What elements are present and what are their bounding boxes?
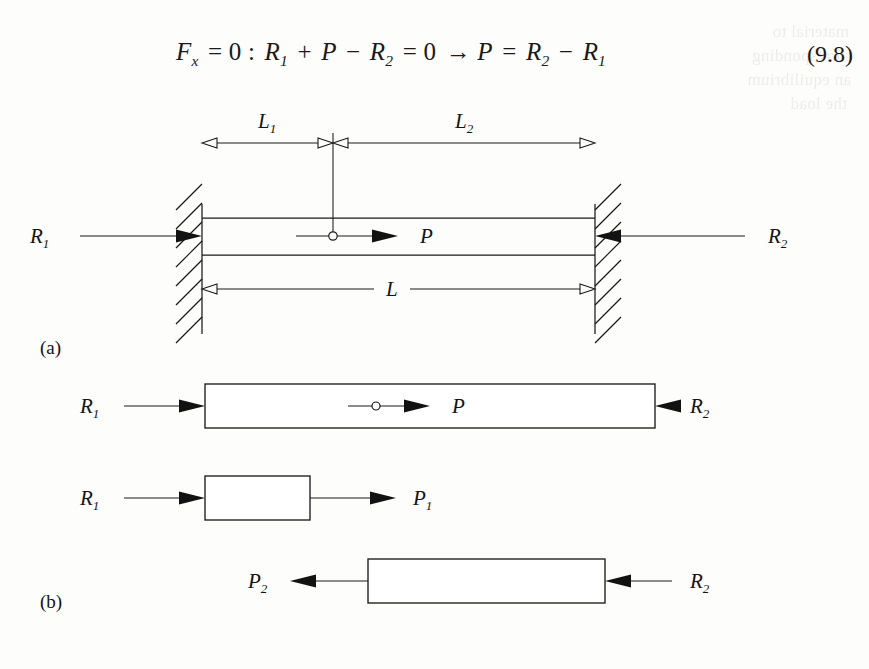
fbd-whole-bar-force-R2-right-arrowhead (655, 400, 681, 413)
equation-term-F: F (176, 38, 191, 65)
equation-term-R2-right: R (526, 38, 541, 65)
equation-plus: + (288, 38, 321, 65)
panel-b-caption: (b) (40, 591, 62, 613)
dimension-L1-label-subscript: 1 (270, 121, 277, 136)
fbd-whole-bar-force-R2-right-label-subscript: 2 (703, 406, 710, 421)
panel-a-reaction-R2-label: R2 (767, 224, 788, 251)
panel-a-load-label: P (419, 224, 433, 248)
panel-a-load-application-point (329, 232, 337, 240)
fbd-right-segment-outline (368, 559, 605, 603)
dimension-L1-arrowhead-right (318, 138, 333, 148)
equation-term-R1-right: R (583, 38, 598, 65)
panel-a-load-arrowhead (372, 230, 398, 243)
panel-a-reaction-R1-label: R1 (29, 224, 49, 251)
dimension-L2-label: L2 (454, 109, 474, 136)
fbd-right-segment-internal-force-P2-label-subscript: 2 (261, 581, 268, 596)
equation-term-F-sub: x (191, 52, 198, 69)
dimension-L-label: L (385, 277, 398, 301)
equation-expression: Fx = 0 : R1 + P − R2 = 0 → P = R2 − R1 (176, 38, 606, 70)
dimension-L-arrowhead-right (580, 284, 595, 294)
fbd-left-segment-internal-force-P1-label: P1 (412, 486, 432, 513)
fbd-right-segment-force-R2-right-segment-label: R2 (689, 569, 710, 596)
equation-term-R2: R (370, 38, 385, 65)
fbd-left-segment-internal-force-P1-arrowhead (370, 492, 396, 505)
fbd-whole-bar-load-application-point (372, 402, 380, 410)
panel-a-reaction-R2-arrowhead (595, 230, 621, 243)
fbd-whole-bar-force-R1-left-label-subscript: 1 (93, 406, 100, 421)
fbd-left-segment-outline (205, 476, 310, 520)
equation-term-P-right: P (471, 38, 493, 65)
fbd-left-segment-internal-force-P1-label-subscript: 1 (426, 498, 433, 513)
equation-9-8: Fx = 0 : R1 + P − R2 = 0 → P = R2 − R1 (175, 22, 606, 86)
equation-term-R1-right-sub: 1 (598, 52, 606, 69)
dimension-L2-arrowhead-right (580, 138, 595, 148)
panel-a-reaction-R2-label-subscript: 2 (781, 236, 788, 251)
equation-term-P: P (321, 38, 336, 65)
fbd-whole-bar-force-R1-left-label: R1 (79, 394, 99, 421)
figure-canvas: L1L2LPR1R2(a)PR1R2R1P1P2R2(b) (0, 86, 869, 661)
dimension-L2-arrowhead-left (333, 138, 348, 148)
equation-eq1: = 0 : (199, 38, 265, 65)
fbd-whole-bar-force-R2-right-label: R2 (689, 394, 710, 421)
fbd-right-segment-force-R2-right-segment-arrowhead (605, 575, 631, 588)
panel-a-reaction-R1-label-subscript: 1 (43, 236, 50, 251)
panel-a-reaction-R1-arrowhead (176, 230, 202, 243)
dimension-L1-arrowhead-left (202, 138, 217, 148)
fbd-right-segment-internal-force-P2-arrowhead (290, 575, 316, 588)
fbd-right-segment-force-R2-right-segment-label-subscript: 2 (703, 581, 710, 596)
equation-eq2: = 0 (393, 38, 445, 65)
fbd-left-segment-force-R1-left-segment-label: R1 (79, 486, 99, 513)
fbd-whole-bar-load-label: P (451, 394, 465, 418)
equation-minus-2: − (549, 38, 582, 65)
equation-row: Fx = 0 : R1 + P − R2 = 0 → P = R2 − R1 (… (0, 22, 869, 86)
equation-term-R1-sub: 1 (280, 52, 288, 69)
dimension-L2-label-subscript: 2 (467, 121, 474, 136)
equation-term-R1: R (265, 38, 280, 65)
fbd-whole-bar-force-R1-left-arrowhead (179, 400, 205, 413)
dimension-L-arrowhead-left (202, 284, 217, 294)
equation-implies-arrow-icon: → (446, 38, 471, 65)
equation-number: (9.8) (807, 22, 853, 86)
dimension-L1-label: L1 (257, 109, 276, 136)
fbd-left-segment-force-R1-left-segment-label-subscript: 1 (93, 498, 100, 513)
equation-eq3: = (493, 38, 526, 65)
fbd-right-segment-internal-force-P2-label: P2 (247, 569, 268, 596)
equation-minus: − (337, 38, 370, 65)
panel-a-caption: (a) (40, 337, 61, 359)
fbd-left-segment-force-R1-left-segment-arrowhead (179, 492, 205, 505)
figure-axially-loaded-bar: L1L2LPR1R2(a)PR1R2R1P1P2R2(b) (0, 86, 869, 661)
